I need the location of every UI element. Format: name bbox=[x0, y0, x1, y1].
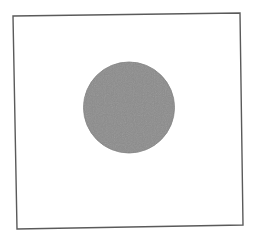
drawing-canvas bbox=[0, 0, 259, 240]
gray-disc bbox=[84, 62, 175, 153]
